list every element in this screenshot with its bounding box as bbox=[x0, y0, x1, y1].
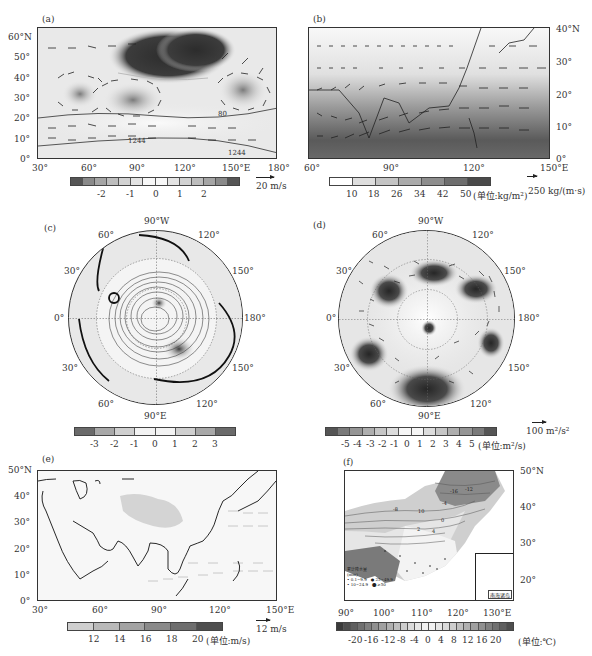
svg-text:1244: 1244 bbox=[128, 137, 146, 145]
panel-b-colorbar bbox=[329, 177, 491, 186]
cbar-unit: (单位:m/s) bbox=[206, 634, 250, 647]
x-tick: 110° bbox=[411, 608, 433, 618]
y-tick: 10° bbox=[556, 122, 572, 132]
reference-vector-label: 250 kg/(m·s) bbox=[528, 186, 585, 196]
reference-vector bbox=[527, 176, 537, 180]
colorbar-swatch bbox=[486, 623, 493, 630]
y-tick: 40° bbox=[14, 73, 30, 83]
colorbar-swatch bbox=[197, 623, 222, 630]
colorbar-swatch bbox=[337, 623, 344, 630]
cbar-tick: 2 bbox=[192, 439, 198, 449]
y-tick: 30° bbox=[556, 57, 572, 67]
colorbar-swatch bbox=[119, 178, 131, 185]
colorbar-swatch bbox=[485, 428, 496, 435]
svg-text:1244: 1244 bbox=[228, 149, 246, 157]
cbar-tick: 2 bbox=[430, 439, 436, 449]
colorbar-swatch bbox=[176, 428, 196, 435]
cbar-tick: 42 bbox=[437, 189, 448, 199]
panel-c-polar-map bbox=[68, 230, 243, 405]
reference-vector: 20 m/s bbox=[256, 177, 287, 191]
y-tick: 50°N bbox=[8, 465, 32, 475]
x-tick: 150°E bbox=[222, 163, 250, 173]
lon-label-left: 0° bbox=[54, 313, 64, 323]
y-tick: 30° bbox=[14, 517, 30, 527]
colorbar-swatch bbox=[75, 428, 95, 435]
panel-c-label: (c) bbox=[44, 223, 56, 233]
svg-text:-8: -8 bbox=[393, 506, 398, 512]
legend-item: • 10~24.9 bbox=[347, 582, 368, 587]
colorbar-swatch bbox=[107, 178, 119, 185]
cbar-tick: 26 bbox=[391, 189, 402, 199]
panel-e-colorbar bbox=[67, 622, 223, 631]
colorbar-swatch bbox=[216, 178, 228, 185]
y-tick: 30° bbox=[520, 538, 536, 548]
cbar-tick: 14 bbox=[114, 634, 125, 644]
arrow-icon bbox=[527, 176, 537, 177]
colorbar-swatch bbox=[351, 623, 358, 630]
colorbar-swatch bbox=[387, 428, 399, 435]
colorbar-swatch bbox=[399, 428, 411, 435]
lon-label: 30° bbox=[64, 266, 80, 276]
lon-label-bottom: 90°E bbox=[144, 411, 167, 421]
lon-label: 60° bbox=[98, 230, 114, 240]
colorbar-swatch bbox=[344, 623, 351, 630]
svg-text:10: 10 bbox=[418, 508, 424, 514]
y-tick: 20° bbox=[14, 544, 30, 554]
svg-text:80: 80 bbox=[218, 110, 227, 118]
colorbar-swatch bbox=[375, 428, 387, 435]
y-tick: 60°N bbox=[8, 32, 32, 42]
colorbar-swatch bbox=[131, 178, 143, 185]
x-tick: 120° bbox=[174, 163, 196, 173]
lon-label: 60° bbox=[98, 399, 114, 409]
lon-label: 120° bbox=[198, 230, 220, 240]
cbar-tick: 50 bbox=[460, 189, 471, 199]
y-tick: 50° bbox=[14, 52, 30, 62]
colorbar-swatch bbox=[479, 623, 486, 630]
colorbar-swatch bbox=[330, 178, 353, 185]
cbar-tick: -3 bbox=[90, 439, 99, 449]
cbar-tick: 16 bbox=[140, 634, 151, 644]
cbar-tick: 1 bbox=[177, 189, 183, 199]
colorbar-swatch bbox=[145, 623, 171, 630]
precipitation-legend: 累计降水量 (mm) • 0.1~9.9 ● 25~49.9 • 10~24.9… bbox=[347, 567, 403, 600]
cbar-tick: 1 bbox=[172, 439, 178, 449]
lon-label-top: 90°W bbox=[418, 216, 443, 226]
colorbar-swatch bbox=[338, 428, 350, 435]
colorbar-swatch bbox=[500, 623, 507, 630]
y-tick: 20° bbox=[556, 90, 572, 100]
colorbar-swatch bbox=[115, 428, 135, 435]
colorbar-swatch bbox=[358, 623, 365, 630]
x-tick: 180° bbox=[268, 163, 290, 173]
cbar-tick: 3 bbox=[212, 439, 218, 449]
cbar-tick: -3 bbox=[366, 439, 375, 449]
cbar-tick: -1 bbox=[126, 189, 135, 199]
x-tick: 60° bbox=[92, 605, 108, 615]
panel-c-plot bbox=[69, 231, 243, 405]
colorbar-swatch bbox=[156, 178, 168, 185]
colorbar-swatch bbox=[196, 428, 216, 435]
panel-d-label: (d) bbox=[313, 220, 326, 230]
colorbar-swatch bbox=[493, 623, 500, 630]
lon-label: 30° bbox=[334, 363, 350, 373]
y-tick: 10° bbox=[14, 134, 30, 144]
colorbar-swatch bbox=[408, 623, 415, 630]
cbar-tick: -1 bbox=[390, 439, 399, 449]
y-tick: 40° bbox=[520, 502, 536, 512]
x-tick: 90° bbox=[151, 605, 167, 615]
cbar-tick: 0 bbox=[153, 189, 159, 199]
colorbar-swatch bbox=[379, 623, 386, 630]
colorbar-swatch bbox=[372, 623, 379, 630]
colorbar-swatch bbox=[171, 623, 197, 630]
cbar-tick: -2 bbox=[97, 189, 106, 199]
colorbar-swatch bbox=[464, 623, 471, 630]
cbar-tick: -2 bbox=[110, 439, 119, 449]
colorbar-swatch bbox=[399, 178, 422, 185]
reference-vector: 12 m/s bbox=[256, 620, 287, 634]
cbar-tick: -4 bbox=[353, 439, 362, 449]
colorbar-swatch bbox=[507, 623, 513, 630]
cbar-tick: 34 bbox=[414, 189, 425, 199]
panel-c: (c) bbox=[0, 200, 290, 450]
cbar-tick: -4 bbox=[410, 635, 419, 645]
colorbar-swatch bbox=[394, 623, 401, 630]
legend-item: ⬤ ≥50 bbox=[372, 582, 386, 587]
